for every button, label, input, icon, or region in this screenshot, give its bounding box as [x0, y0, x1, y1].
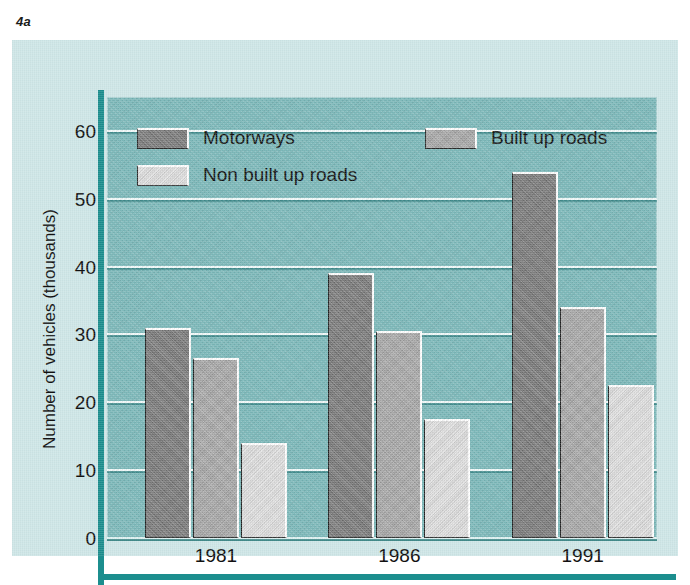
bar-1986-non-built-up-roads: [424, 419, 470, 538]
non-built-up-roads-swatch: [137, 165, 189, 186]
figure-label: 4a: [16, 14, 31, 29]
bar-1991-built-up-roads: [560, 307, 606, 538]
legend-label-built-up-roads: Built up roads: [491, 127, 607, 149]
built-up-roads-swatch: [425, 128, 477, 149]
legend-entry-built-up-roads[interactable]: Built up roads: [425, 127, 607, 149]
y-axis-title: Number of vehicles (thousands): [40, 174, 60, 484]
legend-entry-motorways[interactable]: Motorways: [137, 127, 295, 149]
y-tick-label-60: 60: [50, 121, 96, 140]
legend-entry-non-built-up-roads[interactable]: Non built up roads: [137, 164, 357, 186]
plot-area: Motorways Built up roads Non built up ro…: [107, 97, 657, 538]
y-tick-label-0: 0: [50, 529, 96, 548]
bar-1991-non-built-up-roads: [608, 385, 654, 538]
legend-label-non-built-up-roads: Non built up roads: [203, 164, 357, 186]
x-axis-label-1991: 1991: [562, 545, 604, 567]
x-axis-rule: [98, 574, 676, 580]
legend-label-motorways: Motorways: [203, 127, 295, 149]
chart-panel: 0102030405060 Number of vehicles (thousa…: [12, 40, 678, 556]
gridline-50: [107, 198, 657, 200]
motorways-swatch: [137, 128, 189, 149]
bar-1981-motorways: [145, 328, 191, 538]
bar-1986-built-up-roads: [376, 331, 422, 538]
bar-1991-motorways: [512, 172, 558, 538]
bar-1981-built-up-roads: [193, 358, 239, 538]
x-axis-label-1986: 1986: [378, 545, 420, 567]
x-axis-label-1981: 1981: [195, 545, 237, 567]
y-axis-rule: [98, 90, 104, 585]
gridline-40: [107, 266, 657, 268]
bar-1981-non-built-up-roads: [241, 443, 287, 538]
bar-1986-motorways: [328, 273, 374, 538]
